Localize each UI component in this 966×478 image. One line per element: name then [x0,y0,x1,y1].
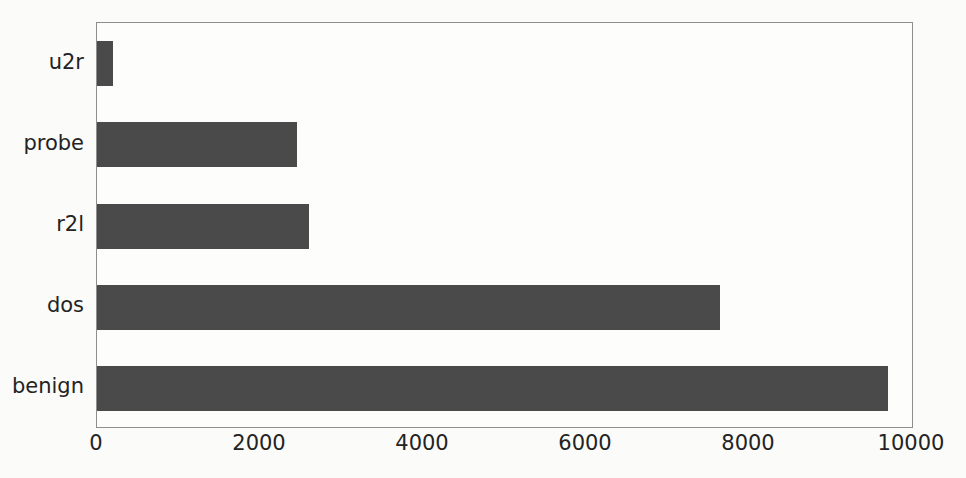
bar-row-u2r [97,41,113,86]
bar-row-dos [97,285,720,330]
y-tick-label-r2l: r2l [56,214,84,235]
plot-area [96,22,913,428]
x-tick-label-8000: 8000 [721,432,774,455]
bar-row-benign [97,366,888,411]
x-axis-tick-labels: 0 2000 4000 6000 8000 10000 [0,432,966,464]
x-tick-label-4000: 4000 [395,432,448,455]
cropped-caption-remnant [96,468,796,476]
y-tick-label-u2r: u2r [49,52,84,73]
y-tick-label-dos: dos [47,295,84,316]
bar-row-probe [97,122,297,167]
x-tick-label-6000: 6000 [558,432,611,455]
bar-row-r2l [97,204,309,249]
bar-benign [97,366,888,411]
y-axis-tick-labels: u2r probe r2l dos benign [0,22,88,428]
bar-dos [97,285,720,330]
x-tick-label-2000: 2000 [232,432,285,455]
figure-canvas: u2r probe r2l dos benign 0 2000 4000 600… [0,0,966,478]
x-tick-label-0: 0 [89,432,102,455]
bar-u2r [97,41,113,86]
bar-r2l [97,204,309,249]
y-tick-label-probe: probe [23,133,84,154]
y-tick-label-benign: benign [12,376,84,397]
x-tick-label-10000: 10000 [878,432,945,455]
bar-probe [97,122,297,167]
